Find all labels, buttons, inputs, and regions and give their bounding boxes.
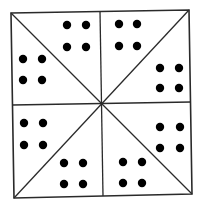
dot (82, 43, 90, 51)
dot (175, 84, 183, 92)
dot (133, 42, 141, 50)
dot (20, 141, 28, 149)
dot (176, 123, 184, 131)
dot (176, 144, 184, 152)
dot (63, 21, 71, 29)
dot (138, 158, 146, 166)
dot (39, 141, 47, 149)
dot (119, 158, 127, 166)
dot (79, 180, 87, 188)
dot (156, 64, 164, 72)
dot (38, 76, 46, 84)
dot (156, 144, 164, 152)
dot (138, 179, 146, 187)
dot (133, 20, 141, 28)
dot (115, 42, 123, 50)
dot (156, 84, 164, 92)
dot (20, 119, 28, 127)
dot (39, 119, 47, 127)
dot (38, 55, 46, 63)
dot (63, 43, 71, 51)
dot (156, 123, 164, 131)
dot (79, 159, 87, 167)
dot (60, 180, 68, 188)
dot (60, 159, 68, 167)
dot (175, 64, 183, 72)
dot (19, 76, 27, 84)
dot (82, 21, 90, 29)
dot (119, 179, 127, 187)
dot-square-diagram (0, 0, 204, 209)
dot (115, 20, 123, 28)
dot (19, 55, 27, 63)
